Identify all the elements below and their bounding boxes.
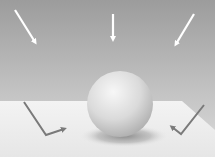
ambient-light-diagram (0, 0, 215, 157)
sphere (87, 71, 153, 137)
diagram-canvas (0, 0, 215, 157)
